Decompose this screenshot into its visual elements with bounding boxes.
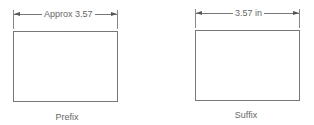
right-extension-line [117, 10, 118, 29]
dimension-label: 3.57 in [233, 8, 264, 18]
shape-rectangle [195, 30, 300, 101]
arrow-right-icon [111, 12, 117, 16]
dimension-label: Approx 3.57 [42, 9, 95, 19]
prefix-diagram: Approx 3.57 Prefix [0, 0, 157, 125]
diagram-caption: Prefix [37, 112, 97, 122]
arrow-left-icon [196, 11, 202, 15]
arrow-right-icon [293, 11, 299, 15]
shape-rectangle [13, 31, 118, 102]
suffix-diagram: 3.57 in Suffix [157, 0, 314, 125]
arrow-left-icon [14, 12, 20, 16]
right-extension-line [299, 9, 300, 28]
diagram-caption: Suffix [216, 110, 276, 120]
